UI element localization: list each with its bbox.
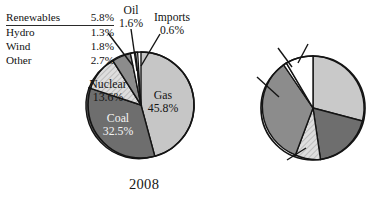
legend-label: Wind: [6, 40, 30, 53]
slice-value: 13.6%: [84, 91, 132, 104]
callout-imports-2008: Imports 0.6%: [146, 12, 198, 37]
callout-oil-2008: Oil 1.6%: [114, 5, 148, 30]
legend-row-hydro: Hydro 1.3%: [6, 26, 114, 40]
slice-value: 32.5%: [96, 125, 140, 138]
legend-label: Hydro: [6, 26, 35, 39]
callout-label: Oil: [114, 5, 148, 18]
slice-label-coal-2008: Coal 32.5%: [96, 112, 140, 138]
callout-value: 1.6%: [114, 18, 148, 31]
legend-value: 1.8%: [91, 40, 114, 53]
legend-title-value: 5.8%: [91, 11, 114, 24]
pie-chart-2020: Oil 1% Imports 9% Renewables 31% Nuclear…: [200, 0, 383, 206]
legend-label: Other: [6, 54, 31, 67]
renewables-legend-2008: Renewables 5.8% Hydro 1.3% Wind 1.8% Oth…: [6, 11, 114, 67]
legend-header-row: Renewables 5.8%: [6, 11, 114, 26]
legend-title: Renewables: [6, 11, 60, 24]
slice-label-nuclear-2008: Nuclear 13.6%: [84, 78, 132, 104]
slice-label-gas-2008: Gas 45.8%: [140, 89, 186, 115]
legend-value: 1.3%: [91, 26, 114, 39]
pie-chart-2008: Renewables 5.8% Hydro 1.3% Wind 1.8% Oth…: [0, 0, 205, 206]
callout-label: Imports: [146, 12, 198, 25]
legend-row-wind: Wind 1.8%: [6, 39, 114, 53]
pie-svg-2020: [200, 0, 383, 206]
energy-mix-pie-figure: Renewables 5.8% Hydro 1.3% Wind 1.8% Oth…: [0, 0, 383, 206]
legend-value: 2.7%: [91, 54, 114, 67]
legend-row-other: Other 2.7%: [6, 53, 114, 67]
slice-value: 45.8%: [140, 102, 186, 115]
year-caption-2008: 2008: [129, 176, 159, 193]
callout-value: 0.6%: [146, 25, 198, 38]
